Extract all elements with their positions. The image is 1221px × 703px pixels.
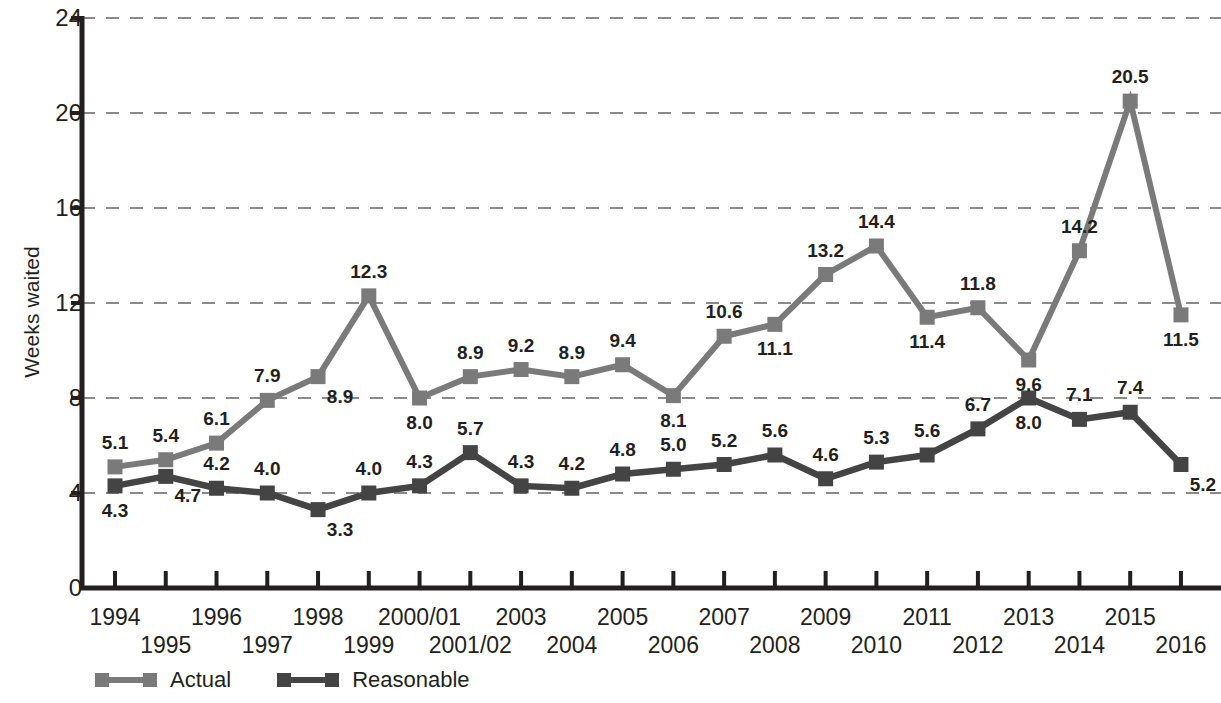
x-tick-label: 2005 xyxy=(597,604,648,631)
data-value-label: 7.1 xyxy=(1066,384,1092,406)
legend-label-reasonable: Reasonable xyxy=(352,667,469,693)
data-value-label: 5.7 xyxy=(457,418,483,440)
data-value-label: 5.6 xyxy=(762,420,788,442)
data-value-label: 4.6 xyxy=(812,444,838,466)
chart-root: Weeks waited 04812162024 199419951996199… xyxy=(0,0,1221,703)
data-value-label: 11.5 xyxy=(1163,329,1199,351)
x-tick-label: 2000/01 xyxy=(378,604,461,631)
legend-marker-square-icon xyxy=(95,673,109,687)
chart-legend: Actual Reasonable xyxy=(95,667,470,693)
x-tick-label: 1999 xyxy=(343,632,394,659)
data-point-marker xyxy=(260,486,275,501)
x-tick-label: 2010 xyxy=(851,632,902,659)
data-point-marker xyxy=(666,462,681,477)
data-value-label: 7.4 xyxy=(1117,377,1143,399)
data-point-marker xyxy=(361,288,376,303)
data-point-marker xyxy=(361,486,376,501)
data-value-label: 5.4 xyxy=(153,425,179,447)
data-value-label: 4.3 xyxy=(508,451,534,473)
data-value-label: 14.4 xyxy=(858,211,895,233)
data-value-label: 5.1 xyxy=(102,432,128,454)
data-point-marker xyxy=(463,369,478,384)
legend-item-reasonable[interactable]: Reasonable xyxy=(277,667,469,693)
y-axis-tick-labels: 04812162024 xyxy=(22,0,82,703)
data-value-label: 14.2 xyxy=(1061,216,1098,238)
data-value-label: 12.3 xyxy=(350,261,387,283)
data-point-marker xyxy=(1021,353,1036,368)
legend-marker-square-icon xyxy=(277,673,291,687)
x-tick-label: 2001/02 xyxy=(429,632,512,659)
data-value-label: 8.0 xyxy=(406,412,432,434)
x-tick-label: 2003 xyxy=(495,604,546,631)
data-value-label: 9.2 xyxy=(508,335,534,357)
legend-item-actual[interactable]: Actual xyxy=(95,667,231,693)
legend-line-icon xyxy=(291,677,325,683)
y-tick-label: 0 xyxy=(22,574,82,602)
data-point-marker xyxy=(920,310,935,325)
data-value-label: 11.1 xyxy=(757,338,793,360)
x-tick-label: 2006 xyxy=(648,632,699,659)
x-tick-label: 1998 xyxy=(292,604,343,631)
data-point-marker xyxy=(717,457,732,472)
data-point-marker xyxy=(412,391,427,406)
x-tick-label: 2012 xyxy=(952,632,1003,659)
data-value-label: 8.1 xyxy=(660,410,686,432)
x-tick-label: 2014 xyxy=(1054,632,1105,659)
data-value-label: 8.9 xyxy=(559,342,585,364)
data-point-marker xyxy=(108,459,123,474)
data-point-marker xyxy=(564,369,579,384)
data-point-marker xyxy=(158,452,173,467)
data-point-marker xyxy=(869,239,884,254)
data-value-label: 7.9 xyxy=(254,365,280,387)
data-point-marker xyxy=(514,478,529,493)
data-point-marker xyxy=(260,393,275,408)
data-point-marker xyxy=(209,481,224,496)
data-point-marker xyxy=(1072,243,1087,258)
data-value-label: 5.3 xyxy=(863,427,889,449)
data-value-label: 3.3 xyxy=(327,519,353,541)
data-value-label: 4.2 xyxy=(203,453,229,475)
y-tick-label: 20 xyxy=(22,99,82,127)
data-point-marker xyxy=(1123,94,1138,109)
data-value-label: 4.0 xyxy=(254,458,280,480)
x-tick-label: 2011 xyxy=(902,604,951,631)
data-value-label: 11.8 xyxy=(960,273,996,295)
data-point-marker xyxy=(1123,405,1138,420)
data-point-marker xyxy=(767,448,782,463)
data-point-marker xyxy=(615,467,630,482)
data-value-label: 9.6 xyxy=(1015,374,1041,396)
data-point-marker xyxy=(311,502,326,517)
legend-marker-square-icon xyxy=(143,673,157,687)
data-point-marker xyxy=(412,478,427,493)
data-value-label: 8.9 xyxy=(327,386,353,408)
y-tick-label: 8 xyxy=(22,384,82,412)
data-value-label: 5.6 xyxy=(914,420,940,442)
x-axis-ticks xyxy=(115,571,1181,588)
y-tick-label: 16 xyxy=(22,194,82,222)
data-point-marker xyxy=(514,362,529,377)
data-point-marker xyxy=(108,478,123,493)
data-value-label: 4.7 xyxy=(175,485,201,507)
data-point-marker xyxy=(869,455,884,470)
y-tick-label: 4 xyxy=(22,479,82,507)
data-value-label: 4.0 xyxy=(356,458,382,480)
data-point-marker xyxy=(666,388,681,403)
data-point-marker xyxy=(818,267,833,282)
data-point-marker xyxy=(615,357,630,372)
data-value-label: 13.2 xyxy=(807,240,844,262)
data-value-label: 6.1 xyxy=(203,408,229,430)
data-point-marker xyxy=(1072,412,1087,427)
y-tick-label: 24 xyxy=(22,4,82,32)
x-tick-label: 2015 xyxy=(1105,604,1156,631)
data-point-marker xyxy=(970,421,985,436)
data-point-marker xyxy=(818,471,833,486)
data-value-label: 5.2 xyxy=(711,430,737,452)
data-point-marker xyxy=(463,445,478,460)
x-tick-label: 2016 xyxy=(1155,632,1206,659)
x-tick-label: 2013 xyxy=(1003,604,1054,631)
legend-marker-square-icon xyxy=(325,673,339,687)
data-value-label: 4.8 xyxy=(609,439,635,461)
x-tick-label: 2008 xyxy=(749,632,800,659)
data-point-marker xyxy=(311,369,326,384)
x-tick-label: 2007 xyxy=(699,604,750,631)
